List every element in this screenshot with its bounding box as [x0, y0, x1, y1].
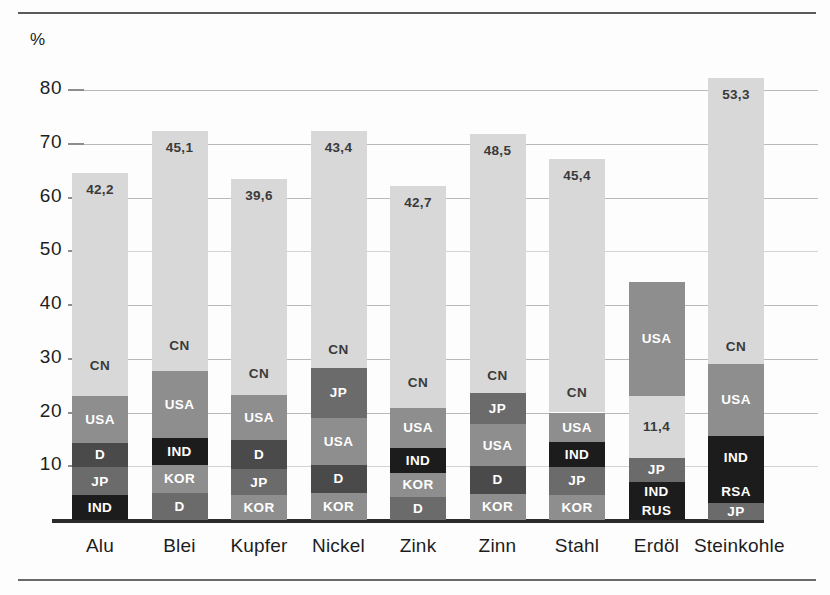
bar-segment-kupfer-jp[interactable]: JP: [231, 469, 287, 495]
bar-segment-zinn-usa[interactable]: USA: [470, 424, 526, 466]
bar-segment-blei-cn[interactable]: CN: [152, 321, 208, 371]
bar-segment-stahl-cn[interactable]: CN: [549, 374, 605, 413]
bar-stahl[interactable]: KORJPINDUSACN45,4: [549, 0, 605, 595]
bar-segment-steinkohle-rsa[interactable]: RSA: [708, 480, 764, 503]
bar-zink[interactable]: DKORINDUSACN42,7: [390, 0, 446, 595]
bar-segment-alu-jp[interactable]: JP: [72, 467, 128, 495]
segment-label: USA: [483, 439, 513, 453]
segment-label: USA: [85, 413, 115, 427]
bar-segment-alu-usa[interactable]: USA: [72, 396, 128, 442]
segment-label: USA: [324, 435, 354, 449]
segment-label: JP: [489, 402, 506, 416]
chart-figure: % 8070605040302010 INDJPDUSACN42,2DKORIN…: [0, 0, 830, 595]
bar-segment-alu-cn[interactable]: CN: [72, 335, 128, 396]
bar-segment-alu-ind[interactable]: IND: [72, 495, 128, 520]
segment-label: USA: [165, 398, 195, 412]
bar-segment-kupfer-usa[interactable]: USA: [231, 395, 287, 440]
bar-segment-blei-d[interactable]: D: [152, 493, 208, 520]
segment-label: USA: [403, 421, 433, 435]
bar-segment-nickel-kor[interactable]: KOR: [311, 493, 367, 520]
bar-total-label-blei: 45,1: [152, 140, 208, 155]
y-tick-label-60: 60: [18, 185, 62, 207]
bar-segment-blei-ind[interactable]: IND: [152, 438, 208, 465]
bar-segment-alu-d[interactable]: D: [72, 443, 128, 468]
segment-label: CN: [408, 376, 428, 390]
x-category-label-alu: Alu: [58, 535, 142, 557]
segment-label: RSA: [721, 485, 751, 499]
bar-segment-steinkohle-cn[interactable]: CN: [708, 330, 764, 364]
bar-segment-kupfer-cn[interactable]: CN: [231, 352, 287, 395]
bar-segment-kupfer-kor[interactable]: KOR: [231, 495, 287, 520]
bar-kupfer[interactable]: KORJPDUSACN39,6: [231, 0, 287, 595]
bar-segment-stahl-ind[interactable]: IND: [549, 442, 605, 467]
segment-label: CN: [328, 343, 348, 357]
bar-segment-kupfer-top[interactable]: [231, 179, 287, 352]
bar-segment-stahl-top[interactable]: [549, 159, 605, 373]
bar-segment-blei-top[interactable]: [152, 131, 208, 321]
segment-label: RUS: [642, 504, 672, 518]
bar-segment-steinkohle-ind[interactable]: IND: [708, 436, 764, 480]
bar-segment-nickel-d[interactable]: D: [311, 465, 367, 493]
bar-blei[interactable]: DKORINDUSACN45,1: [152, 0, 208, 595]
bar-erdöl[interactable]: RUSINDJP11,4USA: [629, 0, 685, 595]
segment-label: JP: [727, 505, 744, 519]
bar-segment-stahl-jp[interactable]: JP: [549, 467, 605, 495]
segment-label: JP: [250, 476, 267, 490]
bar-segment-zinn-kor[interactable]: KOR: [470, 494, 526, 520]
segment-label: JP: [91, 475, 108, 489]
bar-total-label-kupfer: 39,6: [231, 188, 287, 203]
bar-segment-steinkohle-jp[interactable]: JP: [708, 503, 764, 520]
x-category-label-kupfer: Kupfer: [217, 535, 301, 557]
bar-segment-zinn-jp[interactable]: JP: [470, 393, 526, 424]
bar-segment-erdöl-ind[interactable]: IND: [629, 482, 685, 502]
bar-segment-stahl-usa[interactable]: USA: [549, 413, 605, 443]
bar-segment-erdöl-rus[interactable]: RUS: [629, 502, 685, 520]
bar-segment-zink-d[interactable]: D: [390, 497, 446, 520]
segment-label: IND: [644, 485, 668, 499]
bar-segment-alu-top[interactable]: [72, 173, 128, 335]
segment-label: USA: [244, 411, 274, 425]
x-category-label-blei: Blei: [138, 535, 222, 557]
segment-label: CN: [567, 386, 587, 400]
bar-segment-erdöl-jp[interactable]: JP: [629, 458, 685, 482]
bar-segment-blei-usa[interactable]: USA: [152, 371, 208, 438]
bar-segment-kupfer-d[interactable]: D: [231, 440, 287, 469]
segment-label: CN: [169, 339, 189, 353]
bar-segment-zink-ind[interactable]: IND: [390, 448, 446, 473]
bar-segment-zink-kor[interactable]: KOR: [390, 473, 446, 497]
bar-segment-blei-kor[interactable]: KOR: [152, 465, 208, 493]
x-category-label-nickel: Nickel: [297, 535, 381, 557]
bar-segment-zinn-top[interactable]: [470, 134, 526, 359]
stacked-bar-chart-plot: % 8070605040302010 INDJPDUSACN42,2DKORIN…: [0, 0, 830, 595]
bar-segment-nickel-jp[interactable]: JP: [311, 368, 367, 419]
bar-segment-steinkohle-top[interactable]: [708, 78, 764, 330]
bar-segment-nickel-usa[interactable]: USA: [311, 418, 367, 464]
bar-zinn[interactable]: KORDUSAJPCN48,5: [470, 0, 526, 595]
bar-segment-zinn-cn[interactable]: CN: [470, 359, 526, 393]
y-tick-label-20: 20: [18, 400, 62, 422]
bar-segment-zink-top[interactable]: [390, 186, 446, 359]
x-category-label-stahl: Stahl: [535, 535, 619, 557]
bar-segment-nickel-cn[interactable]: CN: [311, 332, 367, 368]
segment-label: IND: [406, 454, 430, 468]
bar-segment-zink-cn[interactable]: CN: [390, 358, 446, 407]
bar-segment-erdöl-usa[interactable]: USA: [629, 282, 685, 396]
segment-label: USA: [642, 332, 672, 346]
bar-segment-zinn-d[interactable]: D: [470, 466, 526, 493]
bar-nickel[interactable]: KORDUSAJPCN43,4: [311, 0, 367, 595]
segment-label: D: [413, 502, 423, 516]
segment-label: KOR: [323, 500, 354, 514]
y-tick-label-30: 30: [18, 346, 62, 368]
bar-steinkohle[interactable]: JPRSAINDUSACN53,3: [708, 0, 764, 595]
bar-segment-erdöl-cn[interactable]: 11,4: [629, 396, 685, 457]
segment-label: 11,4: [643, 420, 670, 434]
bar-segment-steinkohle-usa[interactable]: USA: [708, 364, 764, 436]
segment-label: D: [95, 448, 105, 462]
bar-segment-zink-usa[interactable]: USA: [390, 408, 446, 448]
segment-label: CN: [726, 340, 746, 354]
bar-alu[interactable]: INDJPDUSACN42,2: [72, 0, 128, 595]
bar-segment-stahl-kor[interactable]: KOR: [549, 495, 605, 520]
segment-label: IND: [565, 448, 589, 462]
segment-label: D: [492, 473, 502, 487]
bar-segment-nickel-top[interactable]: [311, 131, 367, 332]
